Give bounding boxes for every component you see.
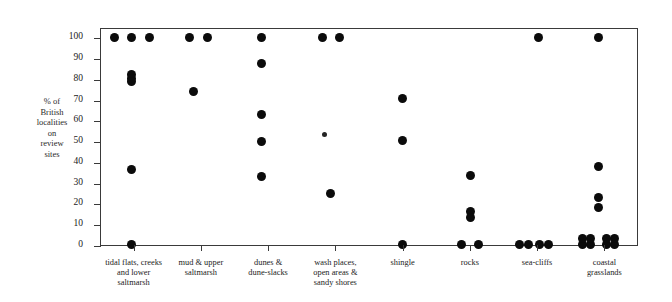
data-point-coastal-grasslands — [594, 193, 603, 202]
x-axis-tick-rocks — [470, 245, 471, 251]
y-axis-tick-mark — [94, 80, 101, 81]
data-point-mud-upper-saltmarsh — [189, 87, 198, 96]
x-axis-tick-coastal-grasslands — [604, 245, 605, 251]
data-point-mud-upper-saltmarsh — [203, 33, 212, 42]
data-point-rocks — [457, 240, 466, 249]
y-axis-label-line: review — [24, 138, 80, 149]
data-point-shingle — [398, 94, 407, 103]
y-axis-label: % ofBritishlocalitiesonreviewsites — [24, 96, 80, 159]
x-axis-tick-mud-upper-saltmarsh — [201, 245, 202, 251]
y-axis-tick-mark — [94, 163, 101, 164]
y-axis-tick-mark — [94, 184, 101, 185]
y-axis-label-line: on — [24, 128, 80, 139]
y-axis-tick-mark — [94, 59, 101, 60]
y-axis-tick-label: 100 — [69, 31, 83, 41]
data-point-rocks — [466, 171, 475, 180]
data-point-tidal-flats — [127, 33, 136, 42]
data-point-dunes-dune-slacks — [257, 172, 266, 181]
data-point-mud-upper-saltmarsh — [185, 33, 194, 42]
y-axis-tick-label: 40 — [74, 156, 84, 166]
data-point-dunes-dune-slacks — [257, 59, 266, 68]
x-axis-tick-wash-places — [335, 245, 336, 251]
plot-area — [100, 28, 638, 246]
x-axis-tick-shingle — [403, 245, 404, 251]
data-point-wash-places — [318, 33, 327, 42]
x-axis-category-label-line: saltmarsh — [80, 278, 188, 288]
y-axis-tick-label: 60 — [74, 114, 84, 124]
y-axis-tick-label: 90 — [74, 52, 84, 62]
data-point-coastal-grasslands — [594, 203, 603, 212]
y-axis-tick-mark — [94, 225, 101, 226]
data-point-sea-cliffs — [544, 240, 553, 249]
y-axis-tick-label: 80 — [74, 73, 84, 83]
data-point-shingle — [398, 136, 407, 145]
data-point-dunes-dune-slacks — [257, 110, 266, 119]
x-axis-category-label-line: open areas & — [281, 268, 389, 278]
data-point-coastal-grasslands — [594, 33, 603, 42]
y-axis-tick-mark — [94, 101, 101, 102]
x-axis-category-label-line: sandy shores — [281, 278, 389, 288]
x-axis-tick-tidal-flats — [134, 245, 135, 251]
y-axis-tick-mark — [94, 38, 101, 39]
y-axis-tick-label: 20 — [74, 197, 84, 207]
data-point-sea-cliffs — [524, 240, 533, 249]
y-axis-tick-mark — [94, 142, 101, 143]
x-axis-tick-dunes-dune-slacks — [268, 245, 269, 251]
x-axis-category-label-coastal-grasslands: coastalgrasslands — [550, 258, 658, 278]
data-point-coastal-grasslands — [594, 162, 603, 171]
data-point-tidal-flats — [145, 33, 154, 42]
data-point-sea-cliffs — [534, 33, 543, 42]
y-axis-label-line: British — [24, 107, 80, 118]
data-point-wash-places — [335, 33, 344, 42]
data-point-tidal-flats — [127, 77, 136, 86]
y-axis-tick-label: 50 — [74, 135, 84, 145]
y-axis-label-line: % of — [24, 96, 80, 107]
data-point-dunes-dune-slacks — [257, 137, 266, 146]
data-point-wash-places — [322, 132, 327, 137]
data-point-tidal-flats — [110, 33, 119, 42]
x-axis-category-label-line: grasslands — [550, 268, 658, 278]
data-point-wash-places — [326, 189, 335, 198]
y-axis-tick-mark — [94, 204, 101, 205]
data-point-tidal-flats — [127, 165, 136, 174]
y-axis-tick-label: 30 — [74, 177, 84, 187]
x-axis-tick-sea-cliffs — [537, 245, 538, 251]
y-axis-tick-label: 10 — [74, 218, 84, 228]
data-point-rocks — [474, 240, 483, 249]
data-point-sea-cliffs — [515, 240, 524, 249]
y-axis-label-line: sites — [24, 149, 80, 160]
y-axis-tick-label: 70 — [74, 94, 84, 104]
y-axis-label-line: localities — [24, 117, 80, 128]
y-axis-tick-mark — [94, 246, 101, 247]
scatter-chart-figure: % ofBritishlocalitiesonreviewsites 01020… — [0, 0, 672, 302]
data-point-dunes-dune-slacks — [257, 33, 266, 42]
y-axis-tick-mark — [94, 121, 101, 122]
x-axis-category-label-line: coastal — [550, 258, 658, 268]
y-axis-tick-label: 0 — [78, 239, 83, 249]
data-point-rocks — [466, 213, 475, 222]
